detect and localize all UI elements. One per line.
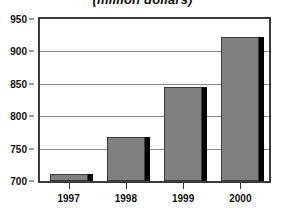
x-tick-label-1997: 1997 — [58, 193, 80, 204]
y-tick-mark-700 — [29, 181, 34, 182]
bar-body-1999 — [164, 87, 202, 181]
x-tick-label-1999: 1999 — [172, 193, 194, 204]
x-tick-label-2000: 2000 — [229, 193, 251, 204]
y-tick-mark-850 — [29, 83, 34, 84]
x-tick-mark-2000 — [240, 183, 241, 189]
y-axis: 700750800850900950 — [0, 17, 34, 183]
x-tick-label-1998: 1998 — [115, 193, 137, 204]
x-tick-mark-1997 — [69, 183, 70, 189]
bar-body-2000 — [221, 37, 259, 181]
y-tick-label-800: 800 — [10, 111, 27, 122]
y-tick-mark-900 — [29, 51, 34, 52]
x-tick-mark-1999 — [183, 183, 184, 189]
plot-area — [38, 17, 271, 183]
bar-1999[interactable] — [164, 87, 211, 181]
plot-inner — [40, 19, 269, 181]
y-tick-label-900: 900 — [10, 46, 27, 57]
chart-page: { "chart_data": { "type": "bar", "title"… — [0, 0, 285, 224]
chart-title: (million dollars) — [0, 0, 285, 7]
x-axis: 1997199819992000 — [38, 183, 271, 224]
bar-1998[interactable] — [107, 137, 154, 181]
y-tick-label-950: 950 — [10, 14, 27, 25]
bar-2000[interactable] — [221, 37, 268, 181]
bar-body-1997 — [50, 174, 88, 181]
y-tick-mark-950 — [29, 19, 34, 20]
y-tick-mark-750 — [29, 148, 34, 149]
y-tick-label-700: 700 — [10, 176, 27, 187]
y-tick-label-750: 750 — [10, 143, 27, 154]
bar-1997[interactable] — [50, 174, 97, 181]
x-tick-mark-1998 — [126, 183, 127, 189]
bar-body-1998 — [107, 137, 145, 181]
y-tick-mark-800 — [29, 116, 34, 117]
y-tick-label-850: 850 — [10, 78, 27, 89]
